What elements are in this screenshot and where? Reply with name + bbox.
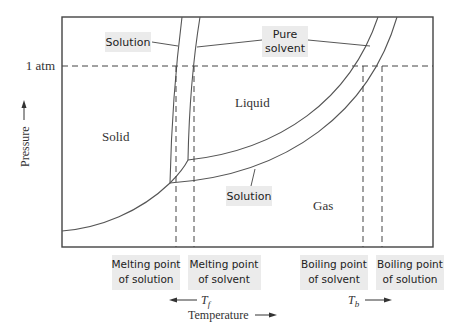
tb-label: Tb	[348, 293, 360, 309]
svg-text:Boiling point: Boiling point	[377, 258, 443, 270]
pure-solvent-label-line1: Pure	[273, 28, 298, 41]
solution-top-label: Solution	[106, 36, 151, 49]
svg-text:Boiling point: Boiling point	[301, 258, 367, 270]
svg-text:Melting point: Melting point	[190, 258, 259, 270]
pure-solvent-leader-right	[308, 40, 370, 46]
y-axis-label: Pressure	[18, 126, 32, 167]
svg-text:of solvent: of solvent	[198, 273, 250, 285]
y-axis-arrowhead-icon	[22, 100, 27, 108]
bottom-label-boiling-solution: Boiling point of solution	[376, 255, 444, 290]
solution-bottom-label: Solution	[227, 190, 272, 203]
region-solid: Solid	[102, 129, 130, 144]
solution-bottom-leader	[251, 169, 255, 186]
x-axis-arrowhead-icon	[269, 313, 277, 318]
region-liquid: Liquid	[235, 95, 270, 110]
pure-solvent-label-line2: solvent	[265, 42, 306, 55]
one-atm-label: 1 atm	[26, 58, 55, 73]
sublimation-curve	[62, 160, 188, 231]
bottom-label-boiling-solvent: Boiling point of solvent	[300, 255, 368, 290]
svg-text:Melting point: Melting point	[112, 258, 181, 270]
pure-solvent-leader-left	[197, 40, 262, 47]
x-axis-label: Temperature	[188, 308, 248, 322]
svg-text:of solvent: of solvent	[308, 273, 360, 285]
bottom-label-melting-solvent: Melting point of solvent	[188, 255, 261, 290]
tf-label: Tf	[201, 293, 212, 309]
phase-diagram: 1 atm Solid Liquid Gas Solution Pure sol…	[0, 0, 458, 328]
solution-top-leader	[152, 42, 178, 46]
tf-arrowhead-icon	[169, 298, 177, 303]
svg-text:of solution: of solution	[382, 273, 437, 285]
bottom-label-melting-solution: Melting point of solution	[112, 255, 181, 290]
region-gas: Gas	[313, 198, 333, 213]
svg-text:of solution: of solution	[118, 273, 173, 285]
tb-arrowhead-icon	[384, 298, 392, 303]
